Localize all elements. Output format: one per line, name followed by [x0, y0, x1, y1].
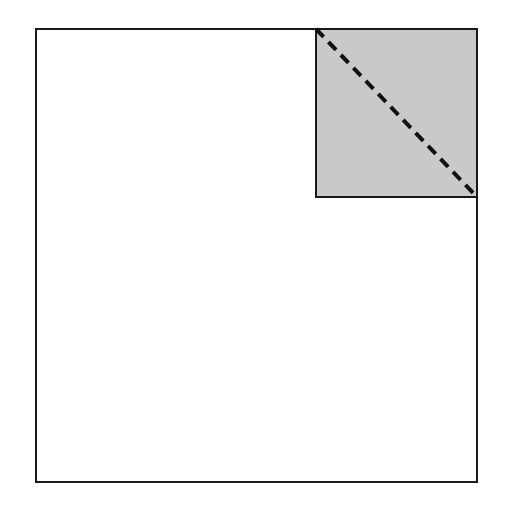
shaded-corner-square	[315, 28, 478, 198]
figure-canvas	[0, 0, 507, 510]
